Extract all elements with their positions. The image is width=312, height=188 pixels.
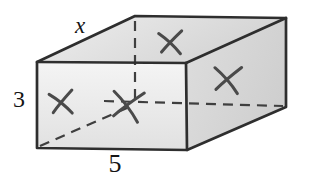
front-top-edge <box>37 62 186 63</box>
dimension-label-3: 3 <box>7 87 31 111</box>
box-diagram <box>0 0 312 188</box>
front-right-edge <box>186 63 187 150</box>
dimension-label-5: 5 <box>102 151 128 177</box>
dimension-label-x: x <box>66 14 94 37</box>
